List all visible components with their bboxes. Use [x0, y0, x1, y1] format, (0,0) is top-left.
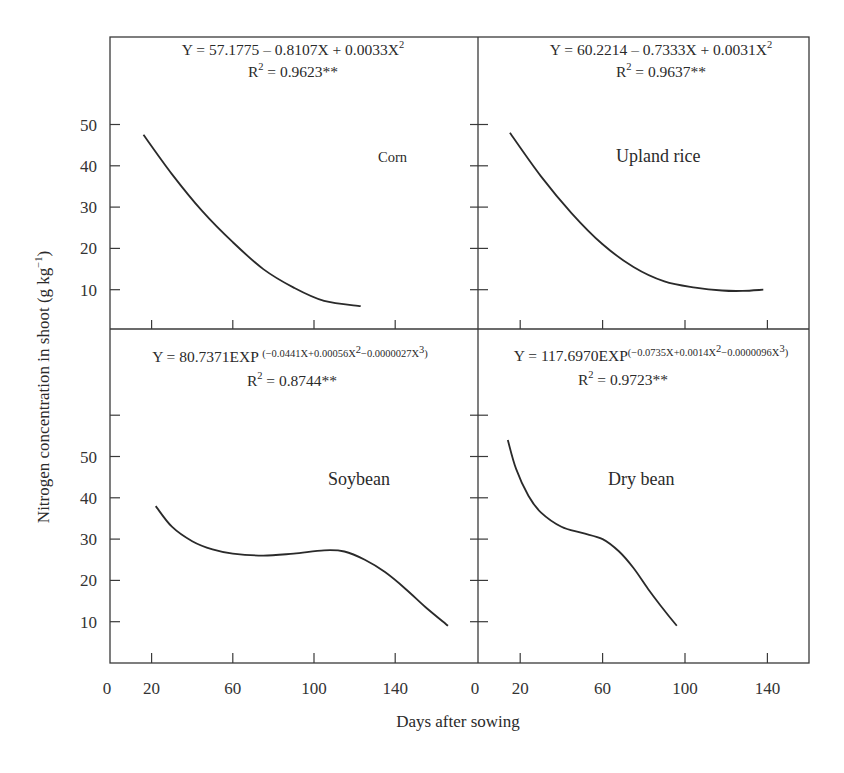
upland-rice-equation: Y = 60.2214 – 0.7333X + 0.0031X2	[550, 39, 772, 58]
y-tick-label: 50	[80, 448, 97, 467]
fitted-curves	[144, 133, 764, 626]
y-tick-label: 50	[80, 116, 97, 135]
dry-bean-label: Dry bean	[608, 469, 674, 489]
corn-label: Corn	[378, 149, 408, 165]
y-tick-label: 40	[80, 489, 97, 508]
y-tick-label: 20	[80, 571, 97, 590]
x-axis-title: Days after sowing	[396, 712, 520, 731]
x-tick-label: 100	[672, 679, 698, 698]
soybean-curve	[156, 506, 448, 626]
y-tick-label: 20	[80, 239, 97, 258]
soybean-r2: R2 = 0.8744**	[247, 370, 337, 389]
x-tick-label: 100	[301, 679, 327, 698]
corn-equation: Y = 57.1775 – 0.8107X + 0.0033X2	[182, 39, 404, 58]
y-tick-label: 40	[80, 157, 97, 176]
x-tick-label: 0	[103, 679, 112, 698]
soybean-equation: Y = 80.7371EXP (−0.0441X+0.00056X2−0.000…	[152, 344, 428, 365]
y-axis-title: Nitrogen concentration in shoot (g kg−1)	[33, 251, 53, 523]
upland-rice-label: Upland rice	[616, 146, 700, 166]
x-tick-label: 20	[143, 679, 160, 698]
corn-r2: R2 = 0.9623**	[248, 61, 338, 80]
dry-bean-curve	[508, 440, 677, 626]
y-tick-label: 30	[80, 198, 97, 217]
x-tick-label: 140	[755, 679, 781, 698]
y-tick-label: 10	[80, 281, 97, 300]
dry-bean-equation: Y = 117.6970EXP(−0.0735X+0.0014X2−0.0000…	[514, 343, 789, 364]
upland-rice-r2: R2 = 0.9637**	[616, 61, 706, 80]
x-tick-label: 0	[471, 679, 480, 698]
y-tick-label: 10	[80, 613, 97, 632]
soybean-label: Soybean	[328, 469, 390, 489]
chart-figure: 1020304050102030405002060100140020601001…	[0, 0, 844, 773]
y-tick-label: 30	[80, 530, 97, 549]
axis-ticks	[110, 125, 767, 664]
x-tick-label: 140	[382, 679, 408, 698]
x-tick-label: 20	[512, 679, 529, 698]
x-tick-label: 60	[224, 679, 241, 698]
dry-bean-r2: R2 = 0.9723**	[578, 369, 668, 388]
corn-curve	[144, 135, 361, 306]
x-tick-label: 60	[594, 679, 611, 698]
